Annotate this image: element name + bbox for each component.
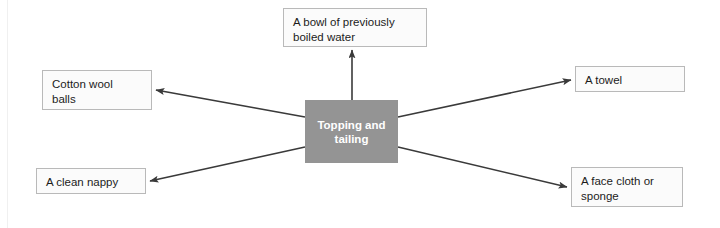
node-label: A towel <box>585 73 675 88</box>
page-frame-line <box>7 0 8 228</box>
node-cotton-wool-balls[interactable]: Cotton wool balls <box>42 70 152 110</box>
node-label: A bowl of previously boiled water <box>293 15 417 44</box>
node-a-face-cloth-or-sponge[interactable]: A face cloth or sponge <box>571 167 683 207</box>
arrow-center-to-face-cloth-or-sponge <box>398 147 567 187</box>
node-a-towel[interactable]: A towel <box>575 66 685 92</box>
arrow-center-to-a-clean-nappy <box>150 147 305 181</box>
node-label: Topping and tailing <box>317 118 385 146</box>
arrow-center-to-cotton-wool-balls <box>156 90 305 117</box>
node-topping-and-tailing[interactable]: Topping and tailing <box>305 100 398 163</box>
node-label: A face cloth or sponge <box>581 174 673 203</box>
node-a-clean-nappy[interactable]: A clean nappy <box>36 168 146 194</box>
node-label: A clean nappy <box>46 175 136 190</box>
arrow-center-to-a-towel <box>398 80 571 117</box>
node-label: Cotton wool balls <box>52 77 142 106</box>
diagram-canvas: A bowl of previously boiled water Cotton… <box>0 0 720 228</box>
node-bowl-of-previously-boiled-water[interactable]: A bowl of previously boiled water <box>283 8 427 47</box>
